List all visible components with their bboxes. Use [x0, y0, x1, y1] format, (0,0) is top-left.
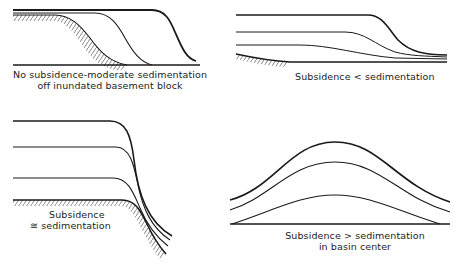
approx-equal-symbol: ≅ [30, 220, 38, 231]
caption-line: in basin center [265, 241, 445, 252]
caption-bottom-right: Subsidence > sedimentation in basin cent… [265, 230, 445, 252]
caption-line: sedimentation [41, 220, 111, 231]
panel-bottom-right [230, 142, 450, 224]
caption-bottom-left: Subsidence ≅ sedimentation [30, 209, 130, 231]
sediment-layer-3 [232, 195, 440, 224]
caption-line: Subsidence > sedimentation [265, 230, 445, 241]
caption-line: off inundated basement block [10, 80, 210, 91]
basement-hatch [13, 15, 127, 71]
panel-bottom-left [13, 121, 172, 259]
caption-line: No subsidence-moderate sedimentation [10, 69, 210, 80]
caption-line: Subsidence < sedimentation [295, 71, 415, 82]
caption-top-left: No subsidence-moderate sedimentation off… [10, 69, 210, 91]
caption-top-right: Subsidence < sedimentation [295, 71, 415, 82]
sediment-layer-3 [236, 45, 447, 59]
caption-line: Subsidence [30, 209, 130, 220]
panel-top-left [13, 10, 200, 71]
sediment-layer-top [236, 15, 447, 55]
panel-top-right [236, 15, 447, 67]
